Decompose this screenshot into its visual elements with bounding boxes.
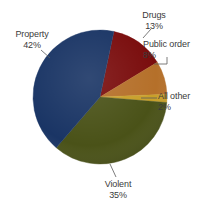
- slice-label-drugs-name: Drugs: [130, 10, 178, 21]
- slice-label-drugs-percent: 13%: [130, 21, 178, 32]
- slice-label-property-percent: 42%: [6, 40, 58, 51]
- slice-label-public-order-name: Public order: [143, 39, 207, 50]
- slice-label-violent-percent: 35%: [94, 190, 142, 201]
- slice-label-property: Property 42%: [6, 29, 58, 50]
- slice-label-drugs: Drugs 13%: [130, 10, 178, 31]
- slice-label-public-order-percent: 8%: [143, 50, 207, 61]
- slice-label-property-name: Property: [6, 29, 58, 40]
- slice-label-public-order: Public order 8%: [143, 39, 207, 60]
- slice-label-all-other: All other 2%: [158, 91, 208, 112]
- slice-label-all-other-name: All other: [158, 91, 208, 102]
- leader-line-violent: [110, 164, 116, 177]
- slice-label-violent-name: Violent: [94, 179, 142, 190]
- pie-chart-figure: Drugs 13% Public order 8% All other 2% V…: [0, 0, 209, 210]
- slice-label-violent: Violent 35%: [94, 179, 142, 200]
- slice-label-all-other-percent: 2%: [158, 102, 208, 113]
